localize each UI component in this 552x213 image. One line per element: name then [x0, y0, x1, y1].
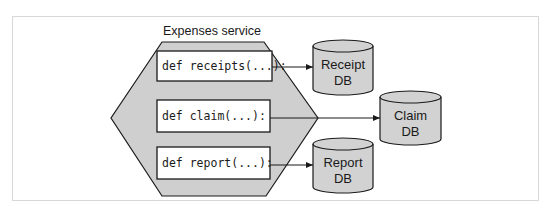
db-label-line1: Report: [323, 155, 362, 170]
db-label-line2: DB: [334, 171, 352, 186]
function-label: def claim(...):: [162, 109, 266, 123]
service-title: Expenses service: [163, 24, 261, 38]
diagram-canvas: Expenses service def receipts(...): def …: [0, 0, 552, 213]
function-box-report[interactable]: def report(...):: [157, 147, 273, 179]
db-label-line1: Receipt: [321, 57, 365, 72]
report-db-cylinder[interactable]: Report DB: [313, 138, 373, 193]
db-label-line2: DB: [334, 73, 352, 88]
receipt-db-cylinder[interactable]: Receipt DB: [313, 40, 373, 95]
function-label: def report(...):: [162, 156, 273, 170]
claim-db-cylinder[interactable]: Claim DB: [380, 91, 441, 145]
db-label-line2: DB: [401, 124, 419, 139]
function-box-receipts[interactable]: def receipts(...):: [157, 51, 287, 81]
function-box-claim[interactable]: def claim(...):: [157, 100, 270, 132]
function-label: def receipts(...):: [162, 59, 287, 73]
db-label-line1: Claim: [394, 108, 427, 123]
